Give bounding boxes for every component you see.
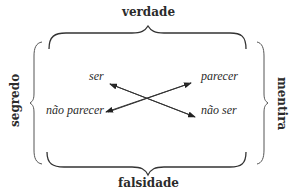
term-nao-parecer: não parecer — [46, 103, 104, 118]
left-brace — [30, 42, 42, 164]
term-nao-ser: não ser — [201, 103, 237, 118]
semiotic-square-diagram: verdade falsidade segredo mentira ser nã… — [0, 0, 297, 194]
right-brace — [257, 42, 268, 164]
label-mentira: mentira — [275, 77, 289, 127]
term-ser: ser — [89, 69, 104, 84]
label-verdade: verdade — [0, 5, 297, 19]
label-segredo: segredo — [8, 77, 22, 127]
bottom-brace — [47, 152, 246, 175]
top-brace — [49, 26, 246, 49]
arrow-to-nao-ser — [110, 84, 195, 117]
term-parecer: parecer — [201, 69, 238, 84]
diagram-lines — [0, 0, 297, 194]
label-falsidade: falsidade — [0, 176, 297, 190]
